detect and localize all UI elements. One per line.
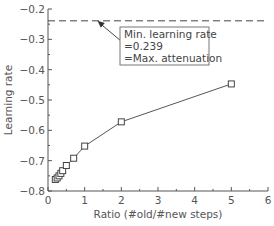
x-tick-label: 2 [118,194,125,206]
x-tick-label: 6 [265,194,272,206]
square-marker-icon [228,81,234,87]
y-tick-label: −0.8 [20,185,46,197]
y-tick-label: −0.6 [20,124,46,136]
y-tick-label: −0.3 [20,33,46,45]
x-tick-label: 3 [155,194,162,206]
series-line [55,84,231,180]
y-axis-label: Learning rate [2,65,14,135]
annotation: Min. learning rate =0.239 =Max. attenuat… [98,21,223,65]
data-series [52,81,234,183]
y-tick-label: −0.7 [20,155,46,167]
annotation-line-2: =0.239 [124,40,163,52]
x-tick-label: 0 [45,194,52,206]
square-marker-icon [63,163,69,169]
x-tick-label: 1 [81,194,88,206]
square-marker-icon [118,119,124,125]
square-marker-icon [82,143,88,149]
x-tick-label: 4 [191,194,198,206]
y-tick-label: −0.5 [20,94,46,106]
learning-rate-chart: 0123456−0.8−0.7−0.6−0.5−0.4−0.3−0.2 Min.… [0,0,274,226]
y-tick-label: −0.4 [20,64,46,76]
square-marker-icon [71,155,77,161]
y-tick-label: −0.2 [20,3,46,15]
x-tick-label: 5 [228,194,235,206]
x-axis-label: Ratio (#old/#new steps) [94,208,223,220]
annotation-arrow [101,24,122,41]
annotation-line-1: Min. learning rate [124,28,217,40]
annotation-line-3: =Max. attenuation [124,52,222,64]
